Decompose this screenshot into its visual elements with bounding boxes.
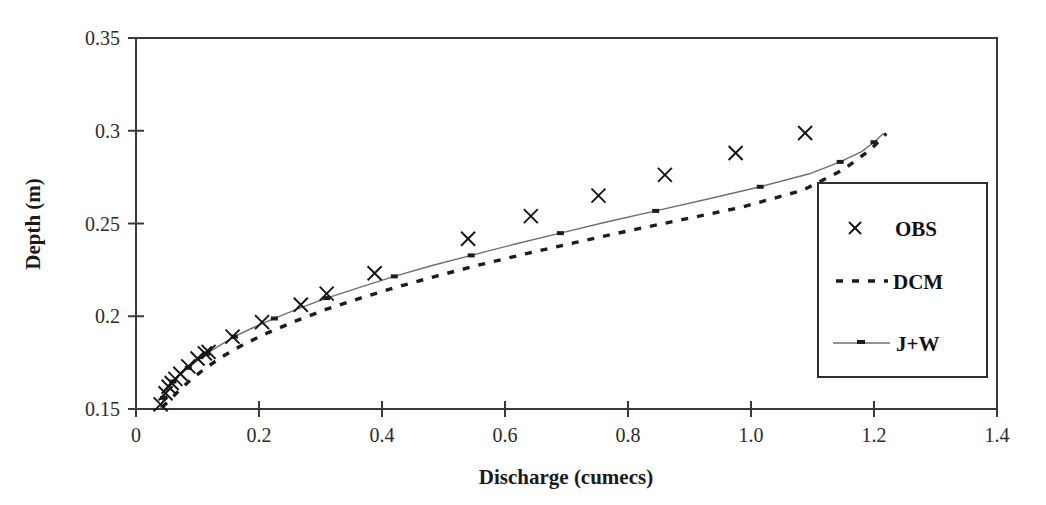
obs-point bbox=[181, 359, 195, 373]
jw-point bbox=[271, 316, 278, 320]
legend-label-obs: OBS bbox=[895, 217, 937, 241]
y-axis-title: Depth (m) bbox=[21, 178, 45, 270]
legend-label-jw: J+W bbox=[896, 332, 939, 356]
x-tick-label: 1.0 bbox=[739, 424, 764, 446]
obs-point bbox=[658, 168, 672, 182]
jw-marker-icon bbox=[857, 340, 865, 344]
x-tick-label: 0.6 bbox=[493, 424, 518, 446]
y-tick-label: 0.2 bbox=[95, 305, 120, 327]
series-obs bbox=[154, 126, 813, 411]
x-tick-label: 0.4 bbox=[370, 424, 395, 446]
x-tick-label: 1.4 bbox=[985, 424, 1010, 446]
jw-point bbox=[837, 160, 844, 164]
x-tick-label: 0.2 bbox=[247, 424, 272, 446]
y-tick-label: 0.3 bbox=[95, 120, 120, 142]
jw-curve bbox=[161, 134, 884, 409]
jw-point bbox=[757, 185, 764, 189]
series-dcm bbox=[162, 134, 886, 408]
depth-discharge-chart: 0.150.20.250.30.35 00.20.40.60.81.01.21.… bbox=[0, 0, 1046, 505]
x-tick-label: 1.2 bbox=[862, 424, 887, 446]
x-tick-label: 0 bbox=[131, 424, 141, 446]
series-jw bbox=[160, 134, 883, 409]
dcm-curve bbox=[162, 134, 886, 408]
chart-legend: OBS DCM J+W bbox=[818, 183, 987, 377]
obs-point bbox=[591, 189, 605, 203]
obs-point bbox=[729, 146, 743, 160]
obs-point bbox=[461, 232, 475, 246]
jw-point bbox=[557, 231, 564, 235]
y-tick-label: 0.35 bbox=[85, 27, 120, 49]
obs-point bbox=[368, 266, 382, 280]
obs-point bbox=[294, 298, 308, 312]
y-tick-label: 0.15 bbox=[85, 398, 120, 420]
obs-point bbox=[798, 126, 812, 140]
legend-label-dcm: DCM bbox=[893, 270, 943, 294]
y-axis-tick-labels: 0.150.20.250.30.35 bbox=[85, 27, 120, 420]
jw-point bbox=[468, 253, 475, 257]
x-axis-tick-labels: 00.20.40.60.81.01.21.4 bbox=[131, 424, 1010, 446]
x-axis-title: Discharge (cumecs) bbox=[479, 465, 653, 489]
y-tick-label: 0.25 bbox=[85, 213, 120, 235]
x-tick-label: 0.8 bbox=[616, 424, 641, 446]
jw-point bbox=[652, 209, 659, 213]
obs-point bbox=[524, 209, 538, 223]
jw-point bbox=[391, 274, 398, 278]
chart-figure: 0.150.20.250.30.35 00.20.40.60.81.01.21.… bbox=[0, 0, 1046, 505]
